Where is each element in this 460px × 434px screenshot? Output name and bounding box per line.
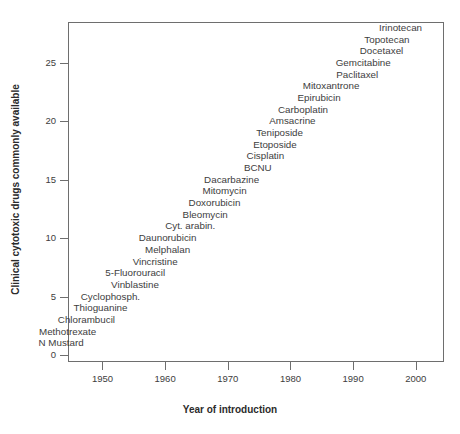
y-axis-tick-label: 20	[30, 115, 56, 126]
x-axis-tick-label: 2000	[386, 373, 446, 384]
x-axis-tick-label: 1990	[323, 373, 383, 384]
data-point-label: Amsacrine	[269, 116, 315, 126]
x-axis-tick-label: 1980	[260, 373, 320, 384]
data-point-label: N Mustard	[38, 338, 83, 348]
chart-figure: 0510152025 195019601970198019902000 N Mu…	[0, 0, 460, 434]
data-point-label: Melphalan	[145, 245, 190, 255]
x-axis-title: Year of introduction	[0, 404, 460, 415]
y-axis-tick-label: 5	[30, 291, 56, 302]
data-point-label: Mitoxantrone	[303, 81, 360, 91]
data-point-label: BCNU	[244, 163, 272, 173]
x-axis-tick-label: 1960	[135, 373, 195, 384]
y-axis-tick-label: 10	[30, 232, 56, 243]
data-point-label: Gemcitabine	[336, 58, 391, 68]
x-axis-tick-label: 1970	[198, 373, 258, 384]
data-point-label: Thioguanine	[74, 303, 128, 313]
x-axis-tick	[165, 362, 166, 370]
y-axis-tick	[60, 180, 68, 181]
data-point-label: Etoposide	[253, 140, 297, 150]
x-axis-tick	[353, 362, 354, 370]
y-axis-tick	[60, 63, 68, 64]
data-point-label: Cyt. arabin.	[165, 222, 215, 232]
data-point-label: Chlorambucil	[58, 315, 115, 325]
data-point-label: Paclitaxel	[336, 70, 378, 80]
data-point-label: Cisplatin	[247, 151, 285, 161]
x-axis-tick	[290, 362, 291, 370]
x-axis-tick	[102, 362, 103, 370]
data-point-label: 5-Fluorouracil	[105, 268, 165, 278]
x-axis-tick	[416, 362, 417, 370]
data-point-label: Teniposide	[256, 128, 303, 138]
data-point-label: Docetaxel	[360, 46, 404, 56]
data-point-label: Daunorubicin	[139, 233, 197, 243]
data-point-label: Doxorubicin	[189, 198, 241, 208]
data-point-label: Carboplatin	[278, 105, 328, 115]
y-axis-tick	[60, 297, 68, 298]
data-point-label: Methotrexate	[39, 327, 96, 337]
x-axis-tick-label: 1950	[72, 373, 132, 384]
y-axis-title: Clinical cytotoxic drugs commonly availa…	[10, 20, 21, 360]
data-point-label: Bleomycin	[183, 210, 228, 220]
y-axis-tick-label: 0	[30, 349, 56, 360]
data-point-label: Cyclophosph.	[81, 292, 140, 302]
data-point-label: Irinotecan	[379, 23, 422, 33]
y-axis-tick	[60, 238, 68, 239]
data-point-label: Vincristine	[133, 257, 178, 267]
data-point-label: Mitomycin	[203, 187, 247, 197]
y-axis-tick-label: 15	[30, 174, 56, 185]
data-point-label: Vinblastine	[111, 280, 159, 290]
y-axis-tick	[60, 121, 68, 122]
x-axis-tick	[228, 362, 229, 370]
y-axis-tick-label: 25	[30, 57, 56, 68]
data-point-label: Topotecan	[364, 35, 409, 45]
data-point-label: Dacarbazine	[204, 175, 259, 185]
data-point-label: Epirubicin	[298, 93, 341, 103]
y-axis-tick	[60, 355, 68, 356]
